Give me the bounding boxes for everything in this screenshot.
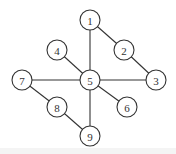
node-5: 5 xyxy=(80,70,100,90)
node-7: 7 xyxy=(12,70,32,90)
node-1: 1 xyxy=(80,10,100,30)
node-label: 5 xyxy=(87,75,93,87)
node-4: 4 xyxy=(47,40,67,60)
node-label: 8 xyxy=(54,102,60,114)
node-label: 7 xyxy=(19,75,25,87)
node-9: 9 xyxy=(80,126,100,146)
node-label: 1 xyxy=(87,15,93,27)
node-8: 8 xyxy=(47,97,67,117)
nodes-layer: 123456789 xyxy=(12,10,166,146)
node-label: 3 xyxy=(153,75,159,87)
graph-diagram: 123456789 xyxy=(0,0,176,154)
node-label: 6 xyxy=(124,102,130,114)
node-6: 6 xyxy=(117,97,137,117)
node-3: 3 xyxy=(146,70,166,90)
node-label: 9 xyxy=(87,131,93,143)
node-2: 2 xyxy=(114,40,134,60)
node-label: 4 xyxy=(54,45,60,57)
node-label: 2 xyxy=(121,45,127,57)
